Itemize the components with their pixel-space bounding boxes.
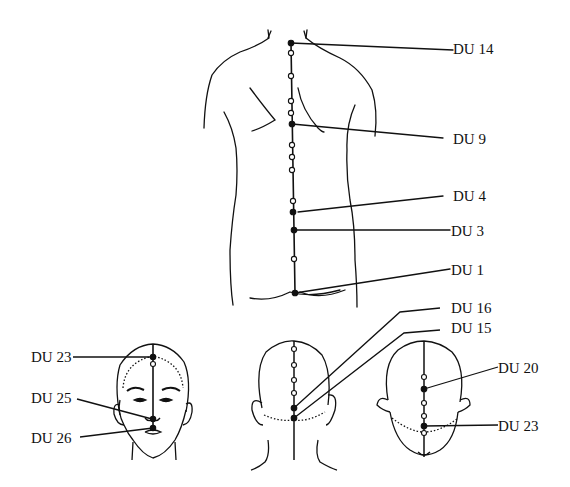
label-du3: DU 3 bbox=[451, 223, 484, 239]
face-outline bbox=[73, 344, 192, 460]
label-du23-top: DU 23 bbox=[498, 418, 538, 434]
label-du20: DU 20 bbox=[498, 360, 538, 376]
head-back-outline bbox=[251, 308, 440, 470]
label-du1: DU 1 bbox=[451, 262, 484, 278]
label-du23-face: DU 23 bbox=[31, 349, 71, 365]
leader-du14 bbox=[291, 43, 453, 50]
leader-du4 bbox=[298, 196, 443, 212]
leader-du9 bbox=[292, 124, 443, 138]
back-points bbox=[288, 40, 298, 296]
label-du4: DU 4 bbox=[453, 188, 486, 204]
label-du16: DU 16 bbox=[451, 300, 491, 316]
label-du14: DU 14 bbox=[453, 41, 493, 57]
leader-du1 bbox=[295, 269, 450, 293]
label-du15: DU 15 bbox=[451, 320, 491, 336]
du-meridian-diagram bbox=[0, 0, 570, 487]
head-top-outline bbox=[377, 341, 498, 457]
label-du9: DU 9 bbox=[453, 131, 486, 147]
label-du26: DU 26 bbox=[31, 430, 71, 446]
label-du25: DU 25 bbox=[31, 390, 71, 406]
